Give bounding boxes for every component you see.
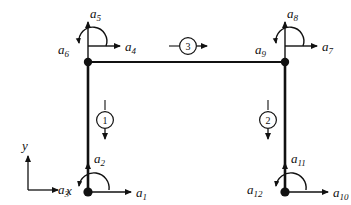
- dof-a3-moment-arc: [79, 173, 109, 190]
- element-2-marker: 2: [260, 100, 277, 139]
- axis-y-label: y: [20, 138, 28, 153]
- element-3-label: 3: [186, 41, 191, 52]
- dof-group-bottom-right: a10 a11 a12: [247, 151, 349, 202]
- dof-group-top-right: a7 a8 a9: [255, 6, 334, 62]
- dof-a6-label: a6: [58, 42, 70, 59]
- element-3-marker: 3: [169, 38, 207, 55]
- diagram-canvas: x y a1 a2 a3 a4 a: [0, 0, 351, 205]
- dof-a12-label: a12: [247, 182, 263, 199]
- dof-a6-moment-arc: [79, 27, 107, 46]
- dof-a8-label: a8: [287, 6, 299, 23]
- element-1-label: 1: [103, 115, 108, 126]
- element-2-label: 2: [266, 115, 271, 126]
- dof-a1-label: a1: [136, 185, 147, 202]
- dof-a9-moment-arc: [276, 27, 304, 46]
- frame-nodes: [83, 58, 289, 197]
- frame-dof-diagram: x y a1 a2 a3 a4 a: [0, 0, 351, 205]
- dof-a10-label: a10: [333, 185, 349, 202]
- frame-members: [88, 62, 285, 192]
- dof-a11-label: a11: [291, 151, 306, 168]
- dof-a9-label: a9: [255, 42, 267, 59]
- dof-a5-label: a5: [90, 6, 102, 23]
- dof-a7-label: a7: [322, 39, 334, 56]
- element-1-marker: 1: [97, 100, 114, 139]
- dof-group-top-left: a4 a5 a6: [58, 6, 137, 62]
- dof-a12-moment-arc: [276, 173, 306, 190]
- dof-a4-label: a4: [125, 39, 137, 56]
- dof-a2-label: a2: [94, 151, 106, 168]
